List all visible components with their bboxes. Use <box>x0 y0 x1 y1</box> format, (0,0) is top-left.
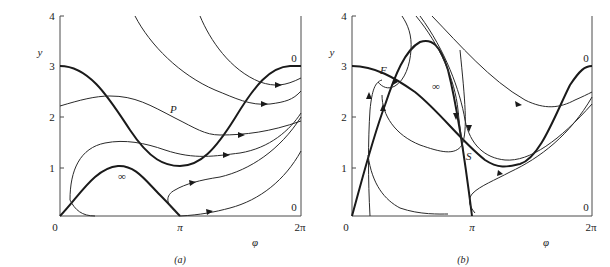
y-tick-label-1-a: 1 <box>49 162 55 174</box>
y-tick-label-2-b: 2 <box>341 111 347 123</box>
y-tick-label-1-b: 1 <box>341 162 347 174</box>
x-axis-label-b: φ <box>543 236 549 248</box>
x-axis-label-a: φ <box>252 236 258 248</box>
x-tick-label-pi-a: π <box>177 221 183 233</box>
figure: 4 3 2 1 y 0 π 2π φ (a) P ∞ 0 0 <box>0 0 610 267</box>
label-zero-top-b: 0 <box>583 52 589 64</box>
arrow-icon <box>189 180 196 186</box>
trajectory-a-bottom-left-loop <box>70 200 95 216</box>
boundary-curve-b-upper <box>352 66 592 167</box>
label-zero-bottom-b: 0 <box>583 201 589 213</box>
y-tick-label-4-b: 4 <box>341 10 347 22</box>
arrow-icon <box>223 152 230 158</box>
arrow-icon <box>497 170 503 176</box>
y-axis-label-a: y <box>37 46 43 58</box>
trajectory-b-S-loop <box>382 50 465 152</box>
arrow-icon <box>366 92 372 99</box>
boundary-curve-a-upper <box>60 66 301 166</box>
label-zero-bottom-a: 0 <box>291 201 297 213</box>
label-S: S <box>466 150 472 162</box>
arrow-icon <box>275 82 282 88</box>
arrow-icon <box>238 132 245 138</box>
x-tick-label-0-a: 0 <box>52 221 58 233</box>
x-tick-label-2pi-a: 2π <box>294 221 306 233</box>
caption-b: (b) <box>457 254 469 266</box>
y-tick-label-3-a: 3 <box>49 60 55 72</box>
trajectory-a-P <box>60 96 301 135</box>
trajectory-a-top1 <box>135 16 301 104</box>
trajectory-a-top2 <box>200 16 301 85</box>
x-tick-label-pi-b: π <box>469 221 475 233</box>
y-axis-label-b: y <box>329 46 335 58</box>
label-F: F <box>379 64 387 76</box>
trajectory-b-bottom-decay <box>368 155 448 214</box>
panel-a: 4 3 2 1 y 0 π 2π φ (a) P ∞ 0 0 <box>37 10 306 266</box>
trajectory-b-top3 <box>432 16 592 107</box>
y-tick-label-2-a: 2 <box>49 111 55 123</box>
y-tick-label-4-a: 4 <box>49 10 55 22</box>
label-zero-top-a: 0 <box>291 52 297 64</box>
arrow-icon <box>261 101 268 107</box>
trajectory-a-origin-loop <box>70 113 301 200</box>
panel-b: 4 3 2 1 y 0 π 2π φ (b) F S ∞ 0 0 <box>329 10 597 266</box>
caption-a: (a) <box>174 254 186 266</box>
arrow-icon <box>515 101 522 107</box>
label-infinity-a: ∞ <box>118 170 126 182</box>
boundary-curve-b-arch <box>352 41 472 216</box>
y-tick-label-3-b: 3 <box>341 60 347 72</box>
trajectory-b-top2 <box>420 16 592 160</box>
label-infinity-b: ∞ <box>432 80 440 92</box>
x-tick-label-2pi-b: 2π <box>585 221 597 233</box>
x-tick-label-0-b: 0 <box>343 221 349 233</box>
label-P: P <box>169 103 177 115</box>
